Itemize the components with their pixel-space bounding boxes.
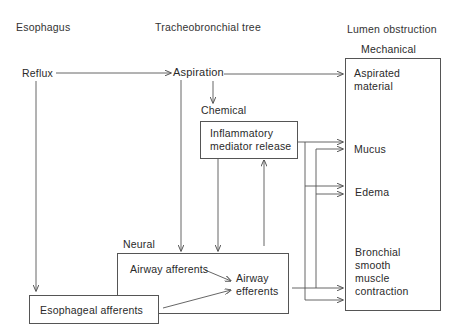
node-mucus: Mucus <box>354 143 386 156</box>
label-neural: Neural <box>123 238 155 251</box>
box-mechanical: Aspirated material Mucus Edema Bronchial… <box>345 58 441 311</box>
inflammatory-line2: mediator release <box>210 140 291 153</box>
airway-efferents-line1: Airway <box>236 272 269 285</box>
airway-efferents-line2: efferents <box>236 285 278 298</box>
node-airway-afferents: Airway afferents <box>130 263 208 276</box>
bronchial-line4: contraction <box>355 285 409 298</box>
node-esophageal-afferents: Esophageal afferents <box>40 304 143 317</box>
box-esophageal-afferents: Esophageal afferents <box>29 295 159 324</box>
label-mechanical: Mechanical <box>361 43 416 56</box>
node-edema: Edema <box>355 186 389 199</box>
node-aspiration: Aspiration <box>173 66 224 79</box>
inflammatory-line1: Inflammatory <box>210 127 273 140</box>
bronchial-line2: smooth <box>355 259 391 272</box>
bronchial-line3: muscle <box>355 272 389 285</box>
aspirated-line1: Aspirated <box>354 67 400 80</box>
box-inflammatory-mediator-release: Inflammatory mediator release <box>200 121 298 159</box>
label-chemical: Chemical <box>201 104 246 117</box>
header-lumen-obstruction: Lumen obstruction <box>347 23 437 36</box>
header-esophagus: Esophagus <box>16 21 70 34</box>
bronchial-line1: Bronchial <box>355 246 401 259</box>
header-tracheobronchial-tree: Tracheobronchial tree <box>155 21 261 34</box>
node-reflux: Reflux <box>22 67 53 80</box>
aspirated-line2: material <box>354 80 393 93</box>
